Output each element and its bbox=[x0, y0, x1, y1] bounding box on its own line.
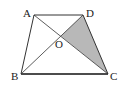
label-d: D bbox=[86, 7, 94, 19]
shaded-triangle-ocd bbox=[61, 15, 108, 74]
label-b: B bbox=[11, 70, 18, 82]
label-c: C bbox=[110, 70, 117, 82]
diagonal-ac bbox=[34, 15, 108, 74]
trapezoid-diagram: A D O B C bbox=[0, 0, 127, 85]
label-o: O bbox=[55, 38, 63, 50]
label-a: A bbox=[23, 7, 31, 19]
